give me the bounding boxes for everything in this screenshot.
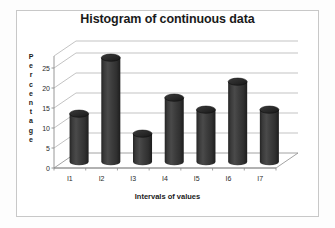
- plot-area: [46, 42, 314, 187]
- x-tick-label: I4: [152, 175, 178, 182]
- x-tick-label: I3: [120, 175, 146, 182]
- bar: [165, 94, 184, 165]
- y-axis-label-letter: P: [26, 52, 36, 61]
- y-tick-label: 10: [28, 125, 50, 132]
- bar: [260, 106, 279, 165]
- plot-svg: [46, 42, 314, 187]
- y-tick-label: 0: [28, 165, 50, 172]
- y-axis-label-letter: r: [26, 70, 36, 79]
- x-tick-label: I5: [184, 175, 210, 182]
- y-tick-label: 25: [28, 65, 50, 72]
- x-axis-label: Intervals of values: [0, 192, 335, 201]
- bar: [70, 110, 89, 165]
- bar: [196, 106, 215, 165]
- x-tick-label: I2: [89, 175, 115, 182]
- x-tick-label: I1: [57, 175, 83, 182]
- x-tick-label: I6: [215, 175, 241, 182]
- y-tick-label: 5: [28, 145, 50, 152]
- bar: [101, 54, 120, 165]
- bar: [228, 78, 247, 165]
- x-tick-label: I7: [247, 175, 273, 182]
- y-axis-label-letter: e: [26, 135, 36, 144]
- chart-figure: Histogram of continuous data Percentage: [0, 0, 335, 228]
- y-tick-label: 15: [28, 105, 50, 112]
- chart-title: Histogram of continuous data: [0, 12, 335, 26]
- bar: [133, 130, 152, 165]
- y-tick-label: 20: [28, 85, 50, 92]
